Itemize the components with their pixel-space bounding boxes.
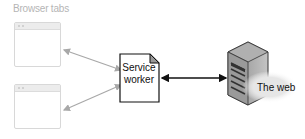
arrow-tab1-sw — [64, 50, 121, 70]
arrow-tab2-sw — [64, 85, 121, 110]
service-worker-label-line2: worker — [122, 74, 156, 86]
service-worker-label-line1: Service — [122, 62, 156, 74]
the-web-label: The web — [257, 82, 295, 93]
service-worker-label: Service worker — [122, 62, 156, 86]
